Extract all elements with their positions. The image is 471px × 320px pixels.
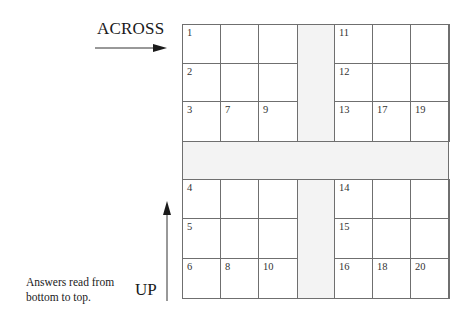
grid-cell[interactable] [221, 64, 259, 103]
grid-cell[interactable]: 12 [335, 64, 373, 103]
instructions-note: Answers read from bottom to top. [26, 275, 136, 305]
grid-cell[interactable] [411, 180, 449, 219]
clue-number: 17 [377, 105, 388, 116]
clue-number: 9 [263, 105, 268, 116]
grid-cell[interactable]: 18 [373, 259, 411, 298]
clue-number: 5 [187, 222, 192, 233]
grid-cell[interactable] [221, 219, 259, 258]
grid-cell[interactable]: 11 [335, 25, 373, 64]
grid-cell[interactable]: 13 [335, 102, 373, 141]
grid-cell[interactable] [373, 64, 411, 103]
grid-cell[interactable] [259, 180, 297, 219]
grid-cell[interactable] [221, 25, 259, 64]
block-top-left: 1 2 3 7 9 [182, 24, 298, 142]
grid-cell[interactable]: 5 [183, 219, 221, 258]
clue-number: 10 [263, 262, 274, 273]
clue-number: 20 [415, 262, 426, 273]
grid-cell[interactable]: 7 [221, 102, 259, 141]
block-top-right: 11 12 13 17 19 [334, 24, 450, 142]
grid-cell[interactable]: 2 [183, 64, 221, 103]
grid-cell[interactable]: 19 [411, 102, 449, 141]
across-label: ACROSS [97, 20, 164, 37]
grid-cell[interactable] [411, 25, 449, 64]
crossnumber-grid: 1 2 3 7 9 11 12 13 17 19 4 5 6 8 10 14 1… [182, 24, 449, 299]
grid-cell[interactable] [259, 25, 297, 64]
clue-number: 11 [339, 28, 349, 39]
clue-number: 19 [415, 105, 426, 116]
note-line-1: Answers read from [26, 275, 136, 290]
clue-number: 8 [225, 262, 230, 273]
grid-cell[interactable]: 9 [259, 102, 297, 141]
clue-number: 1 [187, 28, 192, 39]
clue-number: 7 [225, 105, 230, 116]
clue-number: 15 [339, 222, 350, 233]
grid-cell[interactable] [373, 219, 411, 258]
grid-cell[interactable] [373, 180, 411, 219]
block-bottom-right: 14 15 16 18 20 [334, 179, 450, 299]
grid-cell[interactable]: 16 [335, 259, 373, 298]
block-bottom-left: 4 5 6 8 10 [182, 179, 298, 299]
grid-cell[interactable]: 3 [183, 102, 221, 141]
up-label: UP [135, 281, 157, 298]
grid-cell[interactable]: 6 [183, 259, 221, 298]
clue-number: 18 [377, 262, 388, 273]
grid-cell[interactable] [259, 219, 297, 258]
note-line-2: bottom to top. [26, 290, 136, 305]
grid-cell[interactable] [411, 219, 449, 258]
arrow-right-icon [95, 43, 167, 53]
grid-cell[interactable] [373, 25, 411, 64]
grid-cell[interactable]: 14 [335, 180, 373, 219]
grid-cell[interactable]: 20 [411, 259, 449, 298]
clue-number: 6 [187, 262, 192, 273]
grid-cell[interactable]: 4 [183, 180, 221, 219]
grid-cell[interactable] [259, 64, 297, 103]
clue-number: 12 [339, 67, 350, 78]
clue-number: 2 [187, 67, 192, 78]
clue-number: 4 [187, 183, 192, 194]
clue-number: 13 [339, 105, 350, 116]
grid-cell[interactable] [221, 180, 259, 219]
grid-cell[interactable]: 15 [335, 219, 373, 258]
clue-number: 16 [339, 262, 350, 273]
arrow-up-icon [161, 201, 173, 301]
shaded-horizontal-band [182, 141, 449, 180]
grid-cell[interactable]: 10 [259, 259, 297, 298]
grid-cell[interactable]: 17 [373, 102, 411, 141]
clue-number: 3 [187, 105, 192, 116]
clue-number: 14 [339, 183, 350, 194]
grid-cell[interactable] [411, 64, 449, 103]
grid-cell[interactable]: 8 [221, 259, 259, 298]
grid-cell[interactable]: 1 [183, 25, 221, 64]
